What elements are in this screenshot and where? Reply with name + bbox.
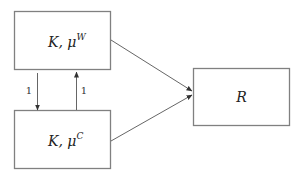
- node-r-label: R: [235, 89, 247, 105]
- edge-c-to-r: [111, 95, 192, 141]
- edge-w-to-r: [111, 40, 192, 91]
- node-c: K, μC: [15, 111, 111, 169]
- edge-c-to-w-label: 1: [81, 85, 87, 96]
- diagram-canvas: K, μW K, μC R 1 1: [0, 0, 306, 178]
- node-w: K, μW: [15, 12, 111, 70]
- node-r: R: [194, 69, 290, 126]
- edge-w-to-c-label: 1: [26, 85, 32, 96]
